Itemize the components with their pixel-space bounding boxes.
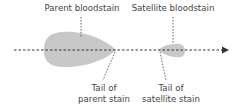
- satellite-tail-label-line1: Tail of: [136, 83, 206, 94]
- satellite-bloodstain-label: Satellite bloodstain: [130, 3, 216, 14]
- parent-bloodstain-shape: [44, 32, 116, 67]
- parent-tail-label-line1: Tail of: [72, 83, 136, 94]
- parent-tail-label: Tail of parent stain: [72, 83, 136, 105]
- satellite-tail-label-line2: satellite stain: [136, 94, 206, 105]
- satellite-tail-label: Tail of satellite stain: [136, 83, 206, 105]
- parent-bloodstain-label: Parent bloodstain: [42, 3, 122, 14]
- satellite-tail-leader: [160, 52, 166, 80]
- parent-tail-label-line2: parent stain: [72, 94, 136, 105]
- arrowhead-icon: [222, 47, 229, 54]
